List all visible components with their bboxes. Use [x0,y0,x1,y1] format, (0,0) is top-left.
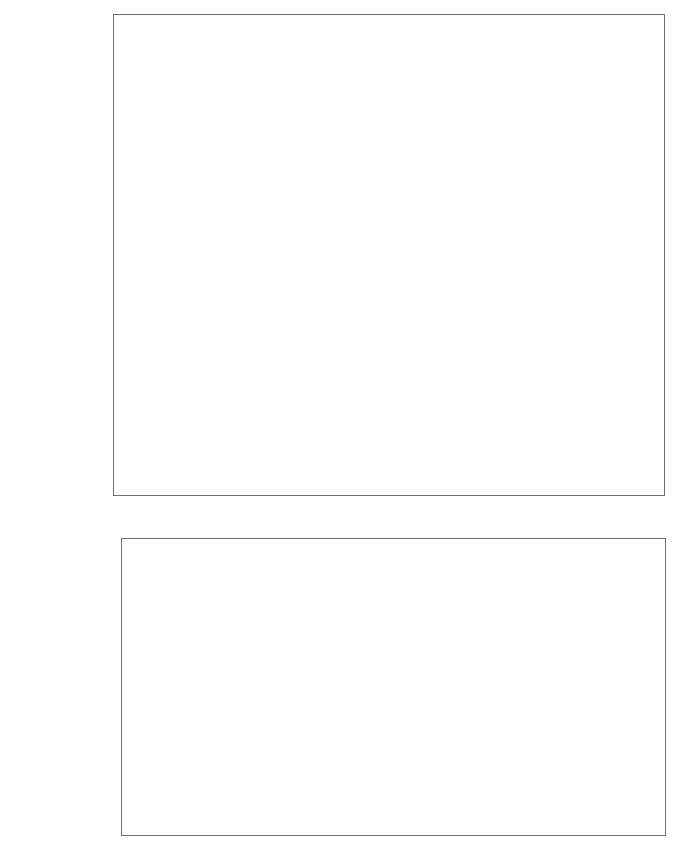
calorie-share-plot-area [121,538,666,836]
calorie-share-chart [0,530,679,848]
monthly-calories-plot-area [113,14,665,496]
monthly-calories-chart [0,0,679,530]
calorie-share-y-axis [121,538,122,836]
